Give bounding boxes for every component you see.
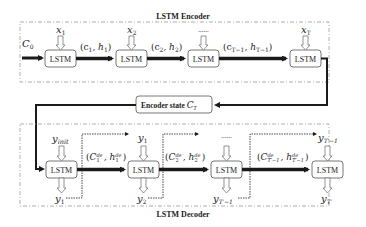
cell-label: LSTM xyxy=(50,55,71,64)
output-arrow-icon xyxy=(323,178,332,193)
cell-label: LSTM xyxy=(193,55,214,64)
state-label-1: (c1, h1) xyxy=(80,42,111,53)
encoder-group: LSTM Encoder C0 LSTM x1 LSTM x2 LSTM ...… xyxy=(20,12,329,82)
decoder-title: LSTM Decoder xyxy=(156,210,210,219)
decoder-group: LSTM Decoder LSTM yinit y1 LSTM y1 y2 LS… xyxy=(20,124,343,219)
cell-label: LSTM xyxy=(133,166,154,175)
input-label: yT′−1 xyxy=(317,132,338,144)
input-arrow-icon xyxy=(139,146,148,161)
output-label: yT′−1 xyxy=(212,193,233,205)
encoder-cell-2: LSTM x2 xyxy=(116,24,147,67)
input-arrow-icon xyxy=(301,36,310,50)
input-arrow-icon xyxy=(323,146,332,161)
seq2seq-diagram: LSTM Encoder C0 LSTM x1 LSTM x2 LSTM ...… xyxy=(0,0,366,227)
output-label: yT′ xyxy=(320,193,333,205)
cell-label: LSTM xyxy=(121,55,142,64)
cell-label: LSTM xyxy=(295,55,316,64)
decoder-cell-2: LSTM y1 y2 xyxy=(128,132,159,205)
decoder-cell-4: LSTM yT′−1 yT′ xyxy=(312,132,343,205)
input-arrow-icon xyxy=(127,36,136,50)
output-arrow-icon xyxy=(57,178,66,193)
input-arrow-icon xyxy=(56,36,65,50)
decoder-cell-1: LSTM yinit y1 xyxy=(46,133,77,205)
input-arrow-icon xyxy=(57,146,66,161)
encoder-cell-3: LSTM ...... xyxy=(188,26,219,67)
input-label: ...... xyxy=(198,26,209,34)
output-label: y2 xyxy=(136,193,147,205)
input-label: yinit xyxy=(51,133,69,146)
output-arrow-icon xyxy=(222,178,231,193)
cell-label: LSTM xyxy=(51,166,72,175)
state-label-3: (cT−1, hT−1) xyxy=(223,42,272,53)
state-label-2: (c2, h2) xyxy=(151,42,182,53)
input-arrow-icon xyxy=(222,146,231,161)
input-label: x1 xyxy=(56,24,65,36)
input-label: x2 xyxy=(127,24,137,36)
input-arrow-icon xyxy=(199,36,208,50)
decoder-state-label-2: (Cde2, hde2) xyxy=(165,152,205,163)
input-label: ...... xyxy=(221,132,232,140)
initial-state-label: C0 xyxy=(22,38,34,50)
cell-label: LSTM xyxy=(216,166,237,175)
feedback-arrow-3 xyxy=(238,134,316,198)
output-label: y1 xyxy=(54,193,64,205)
input-label: y1 xyxy=(137,132,147,144)
encoder-cell-1: LSTM x1 xyxy=(45,24,76,67)
encoder-state-label: Encoder state CT xyxy=(141,100,198,111)
cell-label: LSTM xyxy=(317,166,338,175)
decoder-state-label-3: (CdeT′−1, hdeT′−1) xyxy=(257,152,308,163)
input-label: xT xyxy=(301,24,311,36)
encoder-cell-4: LSTM xT xyxy=(290,24,321,67)
output-arrow-icon xyxy=(139,178,148,193)
decoder-state-label-1: (Cde1, hde1) xyxy=(86,152,126,163)
decoder-cell-3: LSTM ...... yT′−1 xyxy=(211,132,242,205)
encoder-title: LSTM Encoder xyxy=(156,12,210,21)
